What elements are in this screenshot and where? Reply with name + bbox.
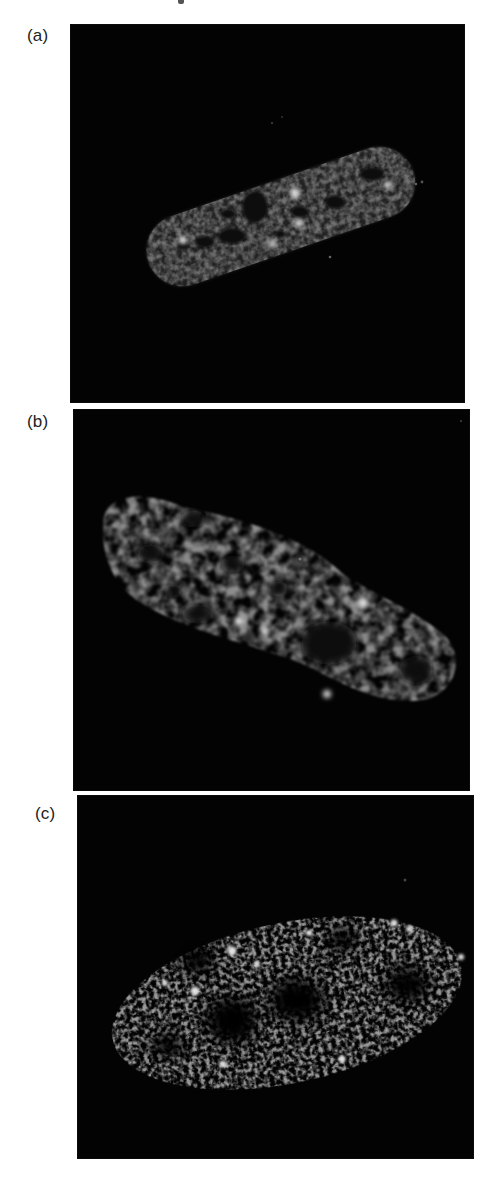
page-fragment-top bbox=[178, 0, 184, 4]
micrograph-panel-b bbox=[73, 409, 470, 791]
panel-label-b: (b) bbox=[27, 413, 48, 430]
panel-label-a: (a) bbox=[27, 27, 48, 44]
nucleus-image-c bbox=[77, 795, 474, 1159]
micrograph-panel-a bbox=[70, 24, 465, 403]
panel-label-c: (c) bbox=[35, 805, 55, 822]
micrograph-panel-c bbox=[77, 795, 474, 1159]
nucleus-image-a bbox=[70, 24, 465, 403]
nucleus-image-b bbox=[73, 409, 470, 791]
